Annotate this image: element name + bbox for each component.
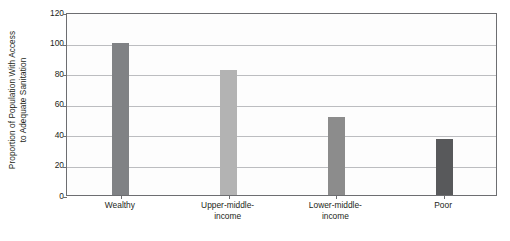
y-axis-tick-mark xyxy=(63,197,67,198)
y-axis-title-container: Proportion of Population With Access to … xyxy=(0,0,36,200)
x-axis-tick-labels: WealthyUpper-middle-incomeLower-middle-i… xyxy=(66,200,497,240)
y-axis-tick-labels: 020406080100120 xyxy=(38,0,64,241)
chart-figure: Proportion of Population With Access to … xyxy=(0,0,510,241)
x-axis-tick-mark xyxy=(444,195,445,199)
x-axis-tick-mark xyxy=(336,195,337,199)
y-axis-title-line-2: to Adequate Sanitation xyxy=(18,31,29,169)
x-axis-tick-label: Wealthy xyxy=(75,200,165,211)
x-axis-tick-label: Upper-middle-income xyxy=(183,200,273,221)
x-axis-tick-label: Poor xyxy=(398,200,488,211)
bar xyxy=(220,70,237,195)
y-axis-tick-label: 20 xyxy=(38,161,64,169)
y-axis-tick-label: 40 xyxy=(38,131,64,139)
x-axis-tick-label-line: Wealthy xyxy=(105,200,135,210)
y-axis-title-line-1: Proportion of Population With Access xyxy=(8,31,17,169)
y-axis-title: Proportion of Population With Access to … xyxy=(7,31,29,169)
bar xyxy=(112,43,129,196)
plot-area xyxy=(66,13,497,196)
x-axis-tick-label-line: Upper-middle- xyxy=(201,200,254,210)
x-axis-tick-label-line: Poor xyxy=(434,200,452,210)
x-axis-tick-label-line: income xyxy=(290,211,380,222)
y-axis-tick-label: 100 xyxy=(38,39,64,47)
bar xyxy=(328,117,345,195)
y-axis-tick-label: 60 xyxy=(38,100,64,108)
y-axis-tick-label: 80 xyxy=(38,70,64,78)
bar xyxy=(436,139,453,195)
bar-series xyxy=(67,14,496,195)
x-axis-tick-mark xyxy=(121,195,122,199)
x-axis-tick-label-line: income xyxy=(183,211,273,222)
y-axis-tick-label: 0 xyxy=(38,192,64,200)
y-axis-tick-label: 120 xyxy=(38,9,64,17)
x-axis-tick-label: Lower-middle-income xyxy=(290,200,380,221)
x-axis-tick-mark xyxy=(229,195,230,199)
x-axis-tick-label-line: Lower-middle- xyxy=(309,200,362,210)
